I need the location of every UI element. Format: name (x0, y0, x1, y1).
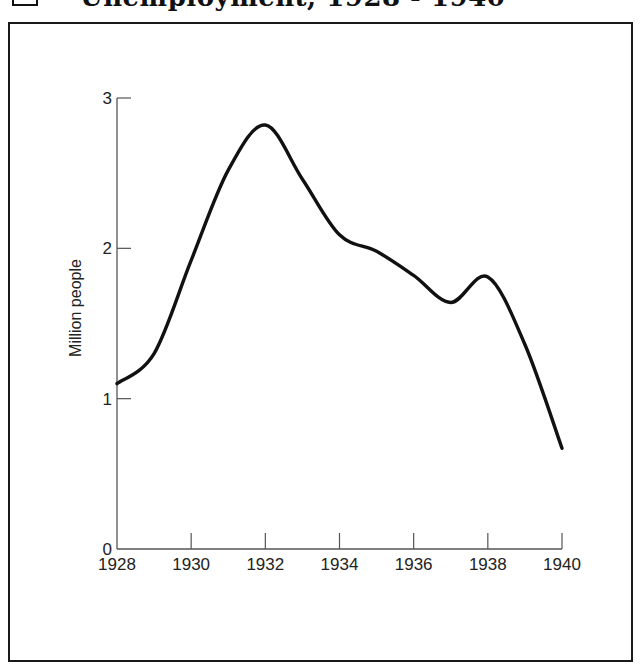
x-tick-label: 1938 (469, 555, 507, 574)
y-tick-label: 3 (103, 89, 112, 108)
x-tick-label: 1928 (98, 555, 136, 574)
x-tick-label: 1932 (246, 555, 284, 574)
x-tick-label: 1930 (172, 555, 210, 574)
y-tick-label: 2 (103, 239, 112, 258)
line-chart: 01231928193019321934193619381940 Million… (0, 0, 641, 668)
axes (117, 98, 562, 549)
x-tick-label: 1940 (543, 555, 581, 574)
y-axis-title: Million people (67, 259, 84, 357)
x-tick-label: 1936 (395, 555, 433, 574)
unemployment-line (117, 125, 562, 448)
y-tick-label: 1 (103, 390, 112, 409)
x-tick-label: 1934 (321, 555, 359, 574)
tick-labels: 01231928193019321934193619381940 (98, 89, 581, 574)
ticks (117, 98, 562, 549)
